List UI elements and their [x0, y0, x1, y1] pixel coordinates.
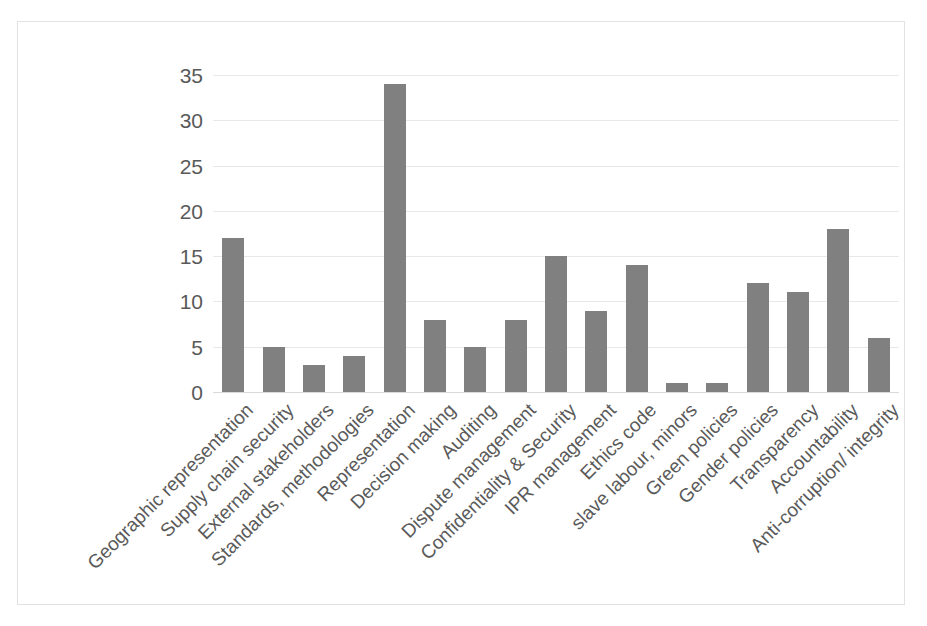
bar [464, 347, 486, 392]
bar [303, 365, 325, 392]
y-axis-tick-label: 10 [180, 291, 203, 312]
bar [424, 320, 446, 392]
y-axis-tick-label: 5 [191, 336, 203, 357]
y-axis-tick-label: 25 [180, 155, 203, 176]
y-axis-tick-label: 15 [180, 246, 203, 267]
plot-area: 05101520253035 [213, 75, 899, 392]
bar [505, 320, 527, 392]
bar [827, 229, 849, 392]
gridline [213, 75, 899, 76]
y-axis-tick-label: 30 [180, 110, 203, 131]
gridline [213, 392, 899, 393]
bar [222, 238, 244, 392]
chart-frame: 05101520253035 Geographic representation… [17, 21, 905, 605]
bar [868, 338, 890, 392]
bar [626, 265, 648, 392]
gridline [213, 211, 899, 212]
gridline [213, 120, 899, 121]
bar [263, 347, 285, 392]
bar [343, 356, 365, 392]
y-axis-tick-label: 20 [180, 200, 203, 221]
bar [706, 383, 728, 392]
bar [787, 292, 809, 392]
bar [545, 256, 567, 392]
bar [585, 311, 607, 393]
bar [747, 283, 769, 392]
gridline [213, 166, 899, 167]
bar [384, 84, 406, 392]
y-axis-tick-label: 35 [180, 65, 203, 86]
y-axis-tick-label: 0 [191, 382, 203, 403]
bar [666, 383, 688, 392]
